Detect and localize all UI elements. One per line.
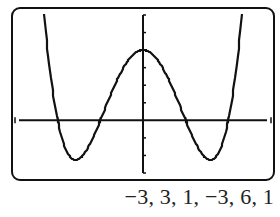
calculator-screen bbox=[11, 7, 275, 181]
window-settings-caption: −3, 3, 1, −3, 6, 1 bbox=[125, 184, 274, 210]
function-graph bbox=[13, 9, 273, 179]
